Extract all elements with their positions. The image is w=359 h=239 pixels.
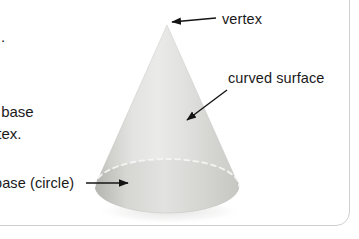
body-text-fragment-line-1: r base: [0, 104, 34, 119]
vertex-arrow-line: [172, 18, 216, 22]
figure-canvas: vertex curved surface base (circle) . r …: [0, 0, 359, 239]
body-text-fragment-dot: .: [1, 29, 5, 44]
vertex-leader: [172, 18, 216, 22]
label-curved-surface: curved surface: [228, 70, 325, 87]
label-vertex: vertex: [222, 11, 262, 28]
cone-diagram: [0, 0, 359, 239]
cone-solid: [95, 25, 239, 213]
label-base-circle: base (circle): [0, 175, 74, 192]
body-text-fragment-line-2: ertex.: [0, 126, 22, 141]
